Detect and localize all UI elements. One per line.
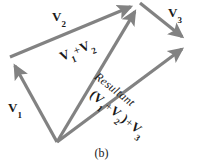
v3-subscript: 3 [177,15,182,25]
v2-subscript: 2 [61,19,66,29]
vector-addition-figure: V1 V2 V3 V1+V2 Resultant (V1+V2)+V3 (b) [0,0,203,167]
figure-caption: (b) [0,146,203,161]
v2-symbol: V [52,9,61,24]
vector-label-v3: V3 [168,4,182,23]
v1-symbol: V [8,100,17,115]
v3-symbol: V [168,5,177,20]
vector-label-v1: V1 [8,99,22,118]
vector-label-v2: V2 [52,8,66,27]
v1-subscript: 1 [17,110,22,120]
